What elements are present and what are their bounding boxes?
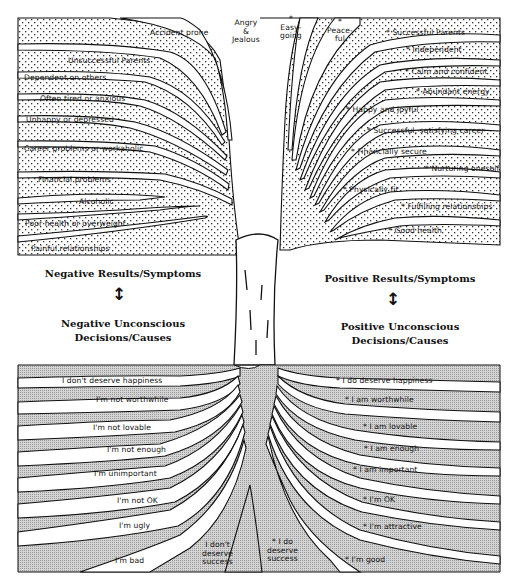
positive-branch-label: * Nurturing oneself <box>425 165 499 173</box>
positive-branch-label: * Good health <box>388 227 442 235</box>
negative-branch-label: Alcoholic <box>79 198 114 206</box>
positive-branch-label: * Independent <box>406 46 462 54</box>
double-arrow-icon: ↕ <box>112 286 126 303</box>
negative-branch-label: Often tired or anxious <box>40 95 125 103</box>
negative-root-label: I'm not OK <box>117 497 158 505</box>
negative-results-heading: Negative Results/Symptoms <box>28 267 218 281</box>
negative-root-label: I don't deserve happiness <box>62 377 162 385</box>
negative-branch-label: Financial problems <box>38 176 111 184</box>
negative-root-label: I'm not lovable <box>93 424 151 432</box>
negative-causes-heading: Negative Unconscious Decisions/Causes <box>38 317 208 344</box>
positive-root-label: * I'm OK <box>363 496 395 504</box>
branch-label-peaceful: * Peace- ful <box>327 18 353 44</box>
negative-root-label: I'm not enough <box>107 446 166 454</box>
negative-root-label: I'm ugly <box>119 522 150 530</box>
negative-branch-label: Unsuccessful Parents <box>68 57 150 65</box>
negative-root-label: I'm not worthwhile <box>96 396 168 404</box>
branch-label-angry-jealous: Angry & Jealous <box>232 19 260 45</box>
negative-branch-label: Poor health or overweight <box>25 220 126 228</box>
positive-branch-label: * Successful, satisfying career <box>367 127 484 135</box>
negative-branch-label: Painful relationships <box>31 245 110 253</box>
negative-branch-label: Dependent on others <box>24 74 106 82</box>
negative-root-label: I don't deserve success <box>202 541 233 567</box>
positive-branch-label: * Happy and joyful <box>346 106 418 114</box>
negative-branch-label: Unhappy or depressed <box>26 116 114 124</box>
negative-root-label: I'm unimportant <box>94 470 157 478</box>
positive-root-label: * I'm attractive <box>363 523 422 531</box>
positive-branch-label: * Financially secure <box>351 148 427 156</box>
positive-root-label: * I am enough <box>364 445 419 453</box>
positive-branch-label: * Fulfilling relationships <box>401 203 492 211</box>
positive-root-label: * I am worthwhile <box>345 396 414 404</box>
trunk <box>234 234 278 365</box>
negative-branch-label: Career problems or workaholic <box>24 145 143 153</box>
positive-root-label: * I am lovable <box>363 423 417 431</box>
negative-root-label: I'm bad <box>115 557 144 565</box>
double-arrow-icon: ↕ <box>386 291 400 308</box>
positive-branch-label: * Successful Parents <box>386 29 465 37</box>
positive-root-label: * I'm good <box>345 556 385 564</box>
positive-results-heading: Positive Results/Symptoms <box>300 272 500 286</box>
negative-branch-label: Accident prone <box>150 29 209 37</box>
positive-branch-label: * Physically fit <box>343 186 398 194</box>
positive-branch-label: * Calm and confident <box>405 68 488 76</box>
positive-causes-heading: Positive Unconscious Decisions/Causes <box>310 320 490 347</box>
positive-root-label: * I am important <box>353 466 417 474</box>
positive-branch-label: * Abundant energy <box>416 88 490 96</box>
positive-root-label: * I do deserve happiness <box>336 377 433 385</box>
positive-root-label: * I do deserve success <box>267 538 298 564</box>
branch-label-easy-going: * Easy- going <box>280 15 302 41</box>
